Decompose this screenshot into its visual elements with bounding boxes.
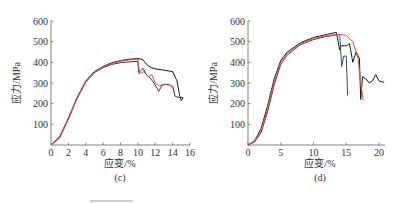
series-c <box>51 59 183 145</box>
y-axis-label-d: 应力/MPa <box>207 62 219 104</box>
x-tick-label: 8 <box>118 147 123 158</box>
x-axis-label-d: 应变/% <box>304 157 335 169</box>
y-tick-label: 600 <box>33 16 48 27</box>
x-tick-label: 20 <box>374 147 384 158</box>
y-axis-label-c: 应力/MPa <box>10 62 22 104</box>
panel-c: 1002003004005006000246810121416 应力/MPa 应… <box>10 16 195 185</box>
ticks-c: 1002003004005006000246810121416 <box>33 16 195 159</box>
y-tick-label: 600 <box>230 16 245 27</box>
y-tick-label: 300 <box>33 78 48 89</box>
stress-strain-figure: 1002003004005006000246810121416 应力/MPa 应… <box>0 0 403 203</box>
panel-label-d: (d) <box>314 172 326 184</box>
series-d <box>248 32 384 145</box>
x-tick-label: 2 <box>66 147 71 158</box>
x-tick-label: 0 <box>49 147 54 158</box>
x-tick-label: 10 <box>309 147 319 158</box>
x-axis-label-c: 应变/% <box>104 157 135 169</box>
panel-label-c: (c) <box>114 172 125 184</box>
y-tick-label: 400 <box>230 57 245 68</box>
series-line-curve-3 <box>51 59 174 145</box>
y-tick-label: 100 <box>230 119 245 130</box>
series-line-curve-3 <box>248 34 363 145</box>
y-tick-label: 200 <box>230 98 245 109</box>
x-tick-label: 6 <box>101 147 106 158</box>
y-tick-label: 200 <box>33 98 48 109</box>
y-tick-label: 100 <box>33 119 48 130</box>
x-tick-label: 0 <box>246 147 251 158</box>
y-tick-label: 500 <box>230 36 245 47</box>
y-tick-label: 400 <box>33 57 48 68</box>
series-line-curve-1 <box>248 32 384 145</box>
y-tick-label: 300 <box>230 78 245 89</box>
x-tick-label: 16 <box>185 147 195 158</box>
x-tick-label: 10 <box>133 147 143 158</box>
x-tick-label: 14 <box>168 147 178 158</box>
x-tick-label: 5 <box>278 147 283 158</box>
x-tick-label: 12 <box>150 147 160 158</box>
series-line-curve-1 <box>51 59 183 145</box>
series-line-curve-2 <box>248 34 348 145</box>
x-tick-label: 4 <box>83 147 88 158</box>
y-tick-label: 500 <box>33 36 48 47</box>
x-tick-label: 15 <box>341 147 351 158</box>
panel-d: 10020030040050060005101520 应力/MPa 应变/% (… <box>207 16 385 185</box>
series-line-curve-2 <box>51 61 183 145</box>
